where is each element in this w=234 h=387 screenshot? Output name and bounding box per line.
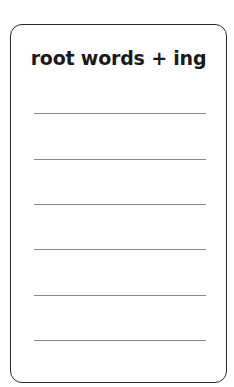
- word-card: root words + ing: [10, 24, 227, 383]
- writing-line-5: [34, 295, 206, 296]
- writing-line-1: [34, 113, 206, 114]
- card-title: root words + ing: [11, 47, 226, 69]
- writing-line-6: [34, 340, 206, 341]
- writing-line-4: [34, 249, 206, 250]
- writing-line-3: [34, 204, 206, 205]
- writing-line-2: [34, 159, 206, 160]
